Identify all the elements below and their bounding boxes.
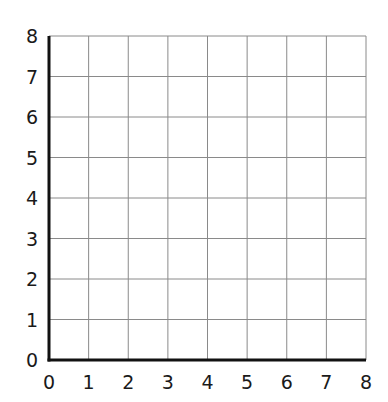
x-tick-label: 2	[122, 371, 134, 393]
y-tick-label: 7	[26, 66, 38, 88]
x-tick-label: 8	[360, 371, 372, 393]
x-tick-label: 5	[241, 371, 253, 393]
y-axis-tick-labels: 012345678	[26, 25, 38, 371]
y-tick-label: 0	[26, 349, 38, 371]
y-tick-label: 6	[26, 106, 38, 128]
y-tick-label: 5	[26, 147, 38, 169]
y-tick-label: 4	[26, 187, 38, 209]
x-tick-label: 7	[320, 371, 332, 393]
y-tick-label: 8	[26, 25, 38, 47]
grid-lines	[49, 36, 366, 360]
x-tick-label: 4	[201, 371, 213, 393]
x-tick-label: 3	[162, 371, 174, 393]
y-tick-label: 2	[26, 268, 38, 290]
y-tick-label: 3	[26, 228, 38, 250]
x-tick-label: 0	[43, 371, 55, 393]
x-axis-tick-labels: 012345678	[43, 371, 372, 393]
y-tick-label: 1	[26, 309, 38, 331]
x-tick-label: 6	[281, 371, 293, 393]
axes	[48, 36, 367, 362]
coordinate-grid-chart: 012345678 012345678	[0, 0, 388, 402]
x-tick-label: 1	[83, 371, 95, 393]
